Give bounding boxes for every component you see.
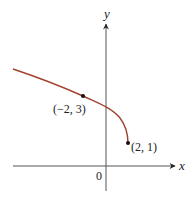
point-neg2-3-label: (−2, 3) xyxy=(53,102,86,116)
point-neg2-3-marker xyxy=(81,94,85,98)
x-axis-label: x xyxy=(178,158,185,173)
function-graph: (−2, 3) (2, 1) 0 x y xyxy=(0,0,189,202)
point-2-1-marker xyxy=(126,141,130,145)
origin-label: 0 xyxy=(96,169,102,183)
point-2-1-label: (2, 1) xyxy=(131,140,157,154)
y-axis-label: y xyxy=(102,6,110,21)
